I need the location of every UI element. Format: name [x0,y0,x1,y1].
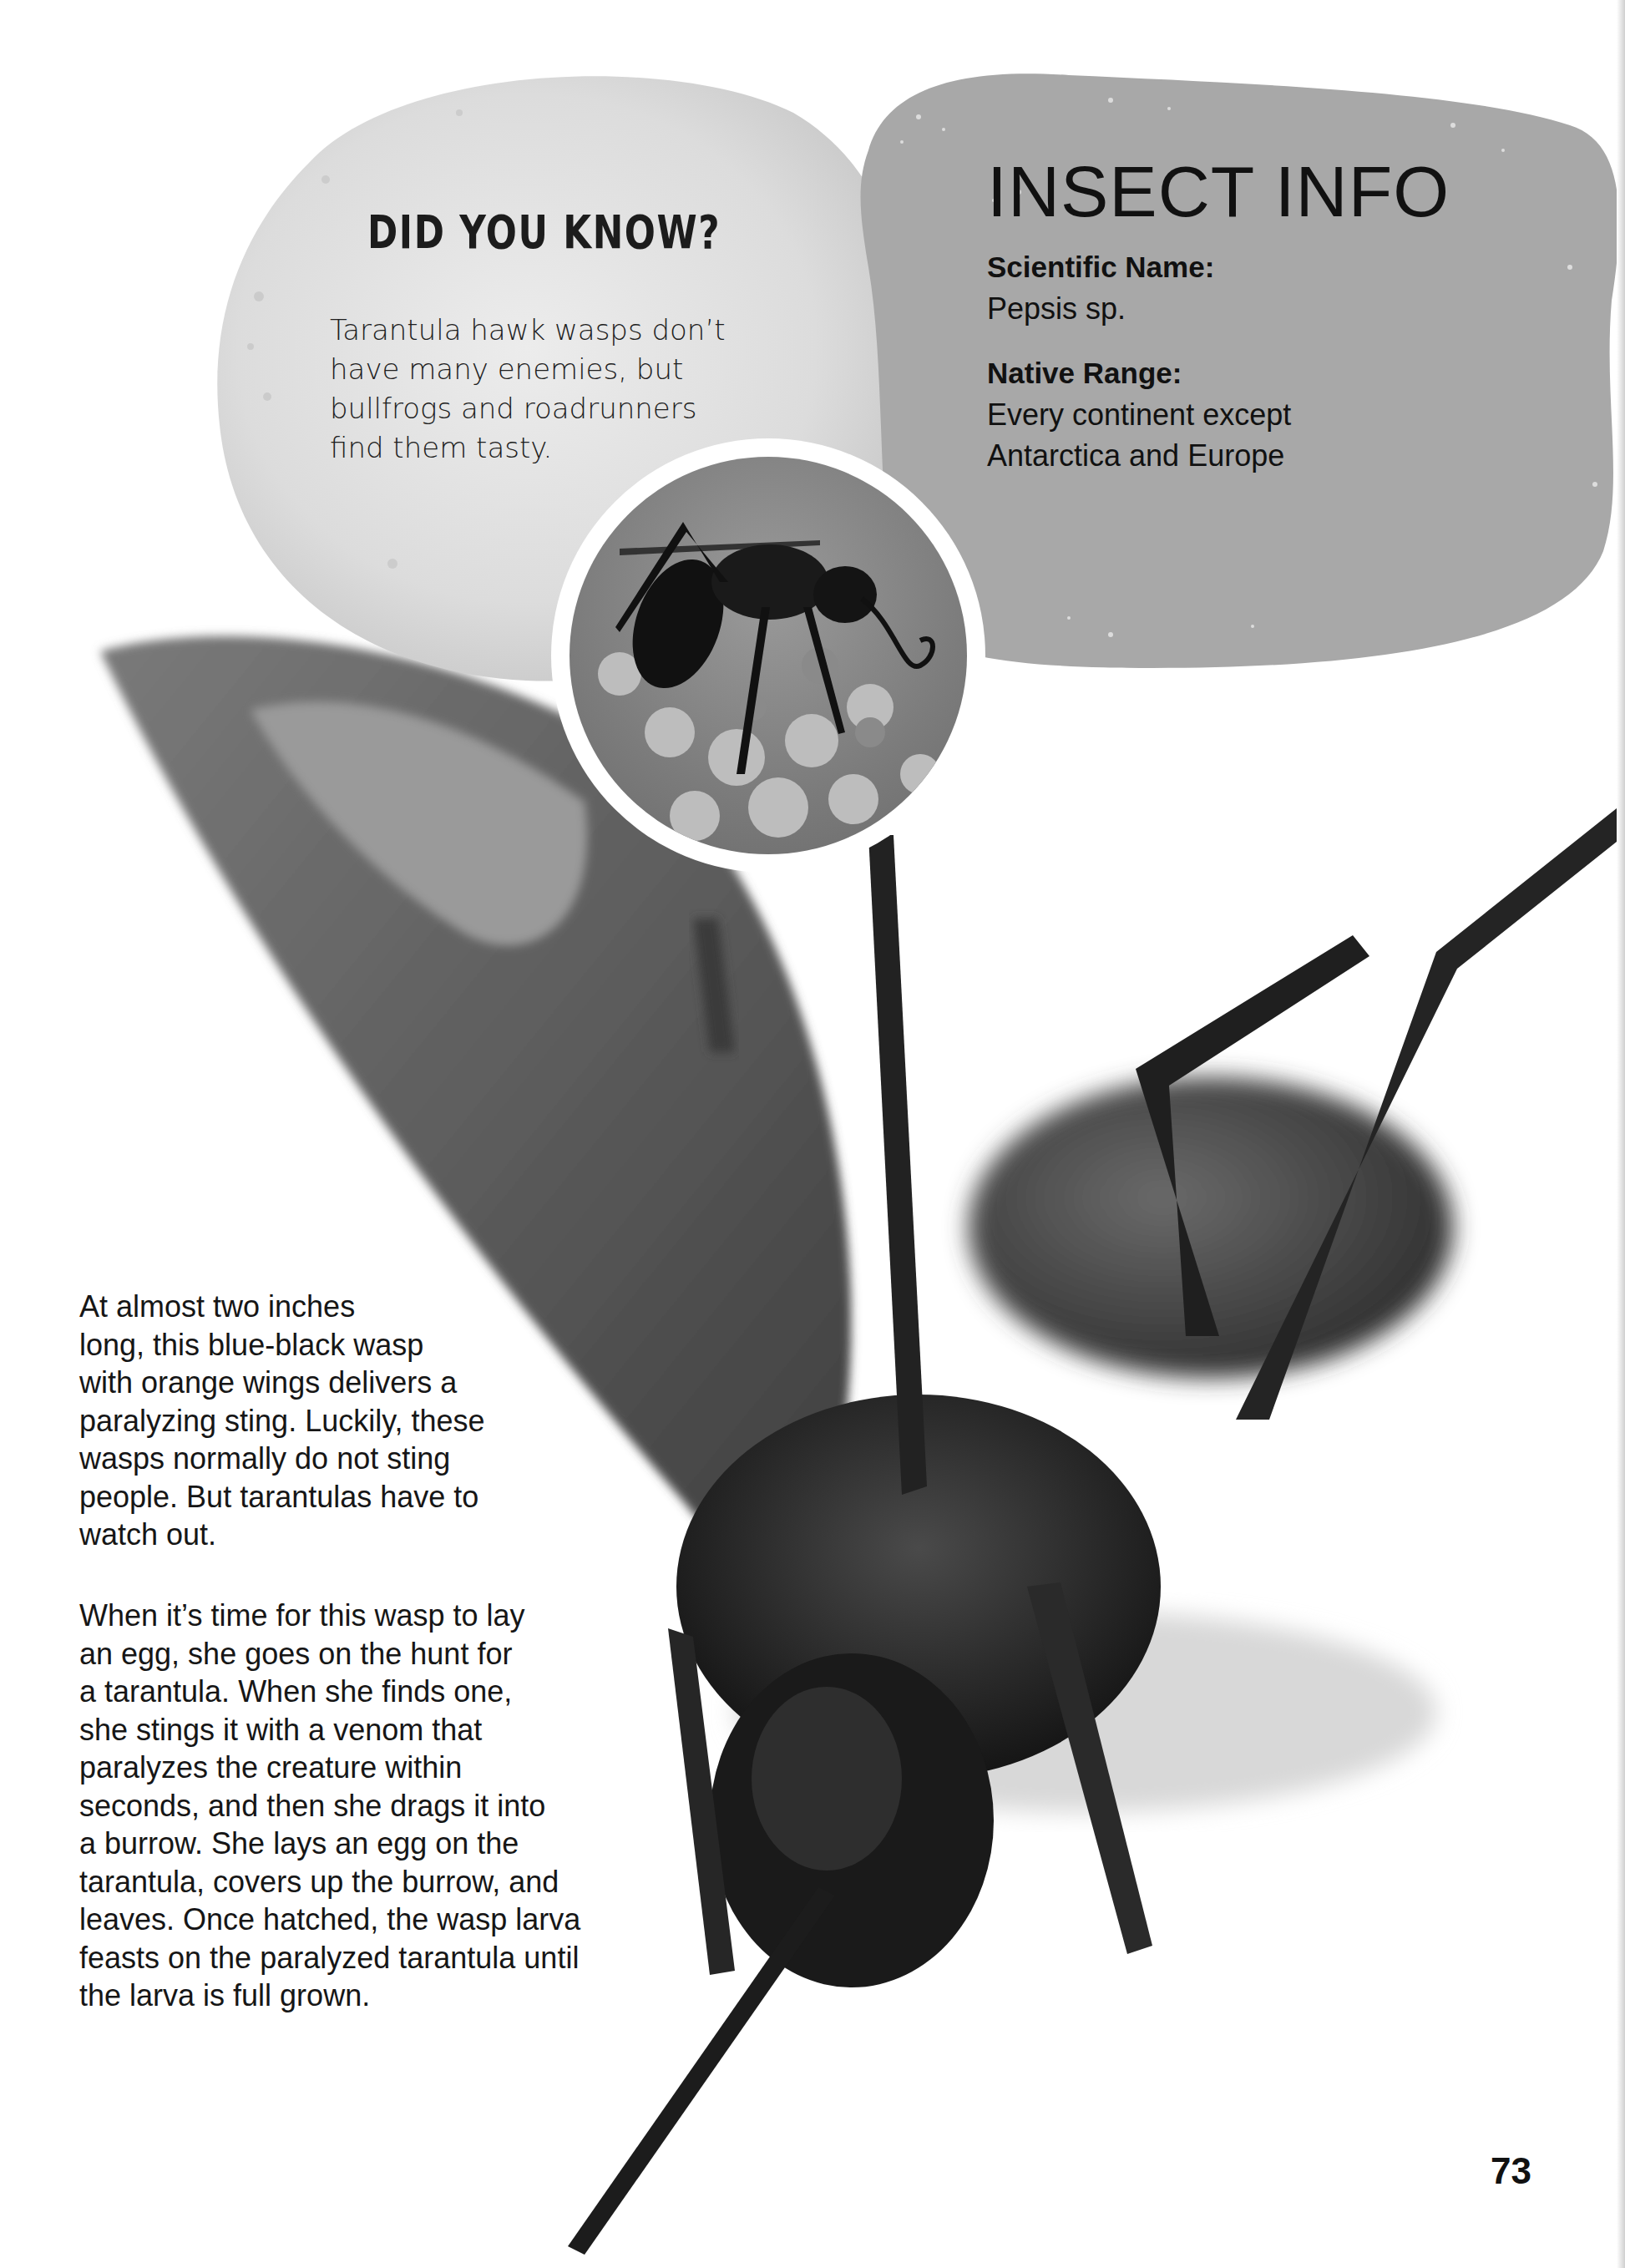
native-range-label: Native Range: [987,357,1182,390]
inset-photo-content [570,457,967,854]
body-line: the larva is full grown. [79,1977,681,2015]
page-edge [1617,0,1625,2268]
body-line: paralyzes the creature within [79,1749,681,1787]
body-line: a burrow. She lays an egg on the [79,1825,681,1863]
body-line: paralyzing sting. Luckily, these [79,1402,614,1440]
insect-info-title: INSECT INFO [987,150,1450,233]
body-line: feasts on the paralyzed tarantula until [79,1939,681,1977]
body-line: leaves. Once hatched, the wasp larva [79,1901,681,1939]
body-line: people. But tarantulas have to [79,1478,614,1516]
native-range-value: Every continent except Antarctica and Eu… [987,394,1421,476]
did-you-know-line: bullfrogs and roadrunners [330,389,764,428]
scientific-name-value: Pepsis sp. [987,288,1126,329]
body-line: a tarantula. When she finds one, [79,1673,681,1711]
inset-wasp-on-flower-photo [551,438,985,873]
body-paragraph-2: When it’s time for this wasp to lay an e… [79,1597,681,2015]
body-line: watch out. [79,1516,614,1554]
body-paragraph-1: At almost two inches long, this blue-bla… [79,1288,614,1554]
body-line: an egg, she goes on the hunt for [79,1635,681,1673]
did-you-know-title: DID YOU KNOW? [367,205,693,259]
native-range-line: Antarctica and Europe [987,435,1421,476]
did-you-know-line: have many enemies, but [330,350,764,389]
body-line: wasps normally do not sting [79,1440,614,1478]
body-line: When it’s time for this wasp to lay [79,1597,681,1635]
body-line: long, this blue-black wasp [79,1326,614,1364]
body-line: At almost two inches [79,1288,614,1326]
body-line: with orange wings delivers a [79,1364,614,1402]
native-range-line: Every continent except [987,394,1421,435]
body-line: seconds, and then she drags it into [79,1787,681,1825]
page-number: 73 [1491,2150,1531,2192]
did-you-know-text: Tarantula hawk wasps don’t have many ene… [330,311,764,468]
scientific-name-label: Scientific Name: [987,251,1214,284]
did-you-know-line: Tarantula hawk wasps don’t [330,311,764,350]
body-line: she stings it with a venom that [79,1711,681,1749]
body-line: tarantula, covers up the burrow, and [79,1863,681,1901]
